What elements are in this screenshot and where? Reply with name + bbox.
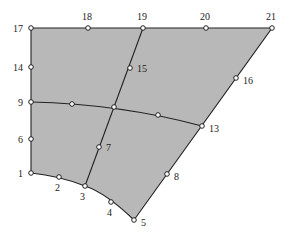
node-label-14: 14	[13, 62, 23, 73]
node-label-20: 20	[200, 11, 210, 22]
node-5	[132, 218, 137, 223]
node-label-5: 5	[141, 217, 146, 228]
node-21	[270, 26, 275, 31]
mesh-region	[31, 28, 272, 220]
node-label-1: 1	[18, 168, 23, 179]
node-14	[29, 65, 34, 70]
node-16	[234, 76, 239, 81]
node-9	[29, 100, 34, 105]
node-18	[86, 26, 91, 31]
node-15	[128, 66, 133, 71]
mesh-diagram: 123456789131415161718192021	[0, 0, 288, 239]
node-12	[156, 113, 161, 118]
node-13	[200, 124, 205, 129]
node-7	[97, 145, 102, 150]
node-19	[141, 26, 146, 31]
node-label-21: 21	[266, 11, 276, 22]
node-6	[29, 137, 34, 142]
node-label-2: 2	[55, 182, 60, 193]
node-label-6: 6	[18, 134, 23, 145]
node-17	[29, 26, 34, 31]
node-label-18: 18	[82, 11, 92, 22]
node-11	[112, 105, 117, 110]
node-label-13: 13	[209, 123, 219, 134]
node-10	[70, 102, 75, 107]
node-label-3: 3	[80, 191, 85, 202]
node-label-4: 4	[107, 207, 112, 218]
node-1	[29, 171, 34, 176]
node-label-16: 16	[243, 75, 253, 86]
node-label-7: 7	[106, 142, 111, 153]
node-8	[165, 172, 170, 177]
node-20	[204, 26, 209, 31]
node-label-17: 17	[13, 23, 23, 34]
node-3	[83, 184, 88, 189]
node-label-9: 9	[18, 97, 23, 108]
node-2	[57, 175, 62, 180]
node-label-8: 8	[174, 171, 179, 182]
node-4	[109, 200, 114, 205]
node-label-15: 15	[137, 63, 147, 74]
node-label-19: 19	[137, 11, 147, 22]
